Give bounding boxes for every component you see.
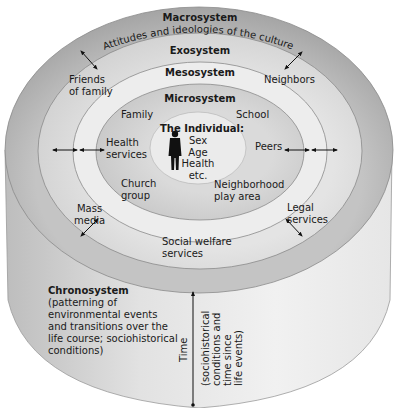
- time-sub-line2: conditions and: [211, 311, 222, 386]
- chronosystem-block: Chronosystem (patterning of environmenta…: [48, 285, 178, 357]
- time-label: Time: [178, 338, 190, 362]
- label-school: School: [236, 109, 269, 121]
- friends-line1: Friends: [69, 74, 113, 86]
- label-health-services: Health services: [106, 137, 147, 161]
- health-line2: services: [106, 149, 147, 161]
- time-sub-line3: time since: [222, 311, 233, 386]
- macrosystem-title: Macrosystem: [160, 12, 240, 24]
- label-neighborhood-play-area: Neighborhood play area: [214, 179, 284, 203]
- label-church-group: Church group: [121, 178, 156, 202]
- neighborhood-line2: play area: [214, 191, 284, 203]
- church-line1: Church: [121, 178, 156, 190]
- time-sub-line4: life events): [233, 311, 244, 386]
- individual-attributes: Sex Age Health etc.: [180, 135, 216, 181]
- label-peers: Peers: [255, 141, 282, 153]
- label-mass-media: Mass media: [74, 203, 105, 227]
- attr-etc: etc.: [180, 170, 216, 182]
- time-sub-line1: (sociohistorical: [200, 311, 211, 386]
- attr-age: Age: [180, 147, 216, 159]
- time-sublabel: (sociohistorical conditions and time sin…: [200, 311, 244, 386]
- chrono-line3: and transitions over the: [48, 321, 178, 333]
- chronosystem-title: Chronosystem: [48, 285, 178, 297]
- attr-sex: Sex: [180, 135, 216, 147]
- attr-health: Health: [180, 158, 216, 170]
- chrono-line1: (patterning of: [48, 297, 178, 309]
- chrono-line5: conditions): [48, 345, 178, 357]
- microsystem-title: Microsystem: [160, 93, 240, 105]
- welfare-line1: Social welfare: [162, 236, 232, 248]
- legal-line2: services: [287, 214, 328, 226]
- time-axis-origin: [191, 403, 195, 407]
- health-line1: Health: [106, 137, 147, 149]
- exosystem-title: Exosystem: [165, 45, 235, 57]
- mass-line1: Mass: [74, 203, 105, 215]
- neighborhood-line1: Neighborhood: [214, 179, 284, 191]
- label-legal-services: Legal services: [287, 202, 328, 226]
- label-social-welfare-services: Social welfare services: [162, 236, 232, 260]
- church-line2: group: [121, 190, 156, 202]
- chrono-line2: environmental events: [48, 309, 178, 321]
- legal-line1: Legal: [287, 202, 328, 214]
- label-family: Family: [121, 109, 153, 121]
- welfare-line2: services: [162, 248, 232, 260]
- mesosystem-title: Mesosystem: [160, 67, 240, 79]
- individual-title: The Individual:: [157, 123, 247, 135]
- label-friends-of-family: Friends of family: [69, 74, 113, 98]
- chrono-line4: life course; sociohistorical: [48, 333, 178, 345]
- label-neighbors: Neighbors: [264, 74, 315, 86]
- mass-line2: media: [74, 215, 105, 227]
- friends-line2: of family: [69, 86, 113, 98]
